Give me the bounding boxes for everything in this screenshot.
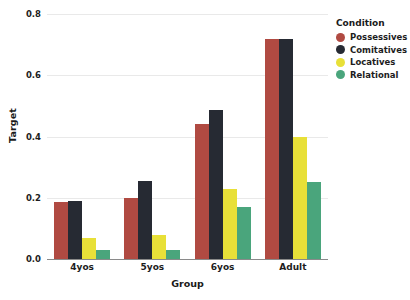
bar (138, 181, 152, 259)
bar (96, 250, 110, 259)
legend-title: Condition (336, 18, 410, 28)
legend: Condition PossessivesComitativesLocative… (336, 18, 410, 82)
legend-label: Possessives (350, 32, 407, 42)
legend-label: Relational (350, 70, 398, 80)
bar (152, 235, 166, 260)
legend-item[interactable]: Possessives (336, 32, 410, 42)
bar-chart: Target 0.00.20.40.60.8 4yos5yos6yosAdult… (0, 0, 410, 300)
bar (223, 189, 237, 259)
x-axis-tick-label: 4yos (47, 262, 117, 272)
bar (209, 110, 223, 259)
x-axis-tick-label: Adult (258, 262, 328, 272)
bar (54, 202, 68, 259)
bar (237, 207, 251, 259)
x-axis-tick-label: 6yos (188, 262, 258, 272)
y-axis-tick-label: 0.2 (26, 193, 41, 203)
bar-group (124, 14, 180, 259)
bar (279, 39, 293, 260)
x-axis-tick-labels: 4yos5yos6yosAdult (47, 262, 328, 272)
bar (265, 39, 279, 260)
legend-swatch-icon (336, 33, 345, 42)
y-axis-tick-label: 0.6 (26, 70, 41, 80)
bar (293, 137, 307, 260)
bar-group (54, 14, 110, 259)
x-axis-title: Group (47, 278, 328, 289)
legend-item[interactable]: Comitatives (336, 45, 410, 55)
bar (124, 198, 138, 259)
legend-item[interactable]: Locatives (336, 57, 410, 67)
x-axis-tick-label: 5yos (117, 262, 187, 272)
legend-swatch-icon (336, 70, 345, 79)
bar (195, 124, 209, 259)
y-axis-tick-label: 0.8 (26, 9, 41, 19)
bar (166, 250, 180, 259)
legend-swatch-icon (336, 58, 345, 67)
legend-label: Locatives (350, 57, 395, 67)
y-axis-title: Target (7, 96, 18, 156)
bar (82, 238, 96, 259)
bar-group (195, 14, 251, 259)
legend-swatch-icon (336, 45, 345, 54)
legend-item[interactable]: Relational (336, 70, 410, 80)
y-axis-tick-label: 0.4 (26, 132, 41, 142)
bar (68, 201, 82, 259)
bar-group (265, 14, 321, 259)
bar (307, 182, 321, 259)
y-axis-tick-label: 0.0 (26, 254, 41, 264)
bar-groups (47, 14, 328, 259)
x-axis-line: 0.0 (47, 259, 328, 260)
plot-area: 0.00.20.40.60.8 (47, 14, 328, 259)
legend-label: Comitatives (350, 45, 407, 55)
legend-items: PossessivesComitativesLocativesRelationa… (336, 32, 410, 80)
